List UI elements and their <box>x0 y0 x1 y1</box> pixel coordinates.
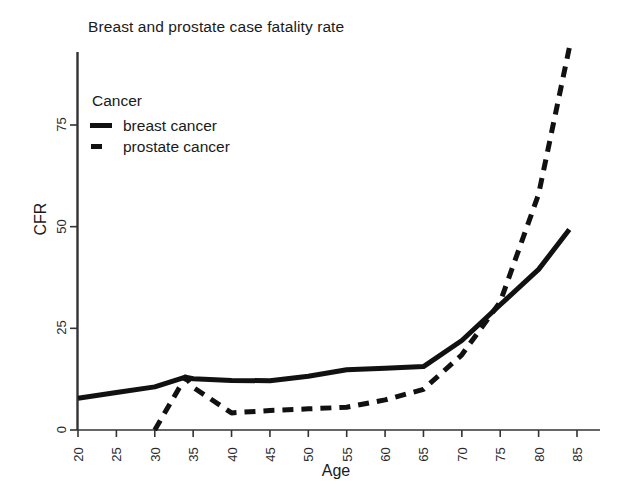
x-tick-label-35: 35 <box>186 442 201 468</box>
x-tick-label-50: 50 <box>301 442 316 468</box>
chart-figure: Breast and prostate case fatality rate C… <box>0 0 622 496</box>
series-line-breast-cancer <box>78 230 569 399</box>
x-tick-label-60: 60 <box>378 442 393 468</box>
y-tick-label-25: 25 <box>54 315 69 341</box>
x-tick-label-25: 25 <box>109 442 124 468</box>
y-tick-label-0: 0 <box>54 417 69 443</box>
y-tick-label-75: 75 <box>54 112 69 138</box>
data-series-layer <box>78 48 569 430</box>
x-tick-label-70: 70 <box>454 442 469 468</box>
plot-area <box>0 0 622 496</box>
y-tick-label-50: 50 <box>54 213 69 239</box>
x-tick-label-20: 20 <box>71 442 86 468</box>
x-tick-marks <box>78 430 577 437</box>
x-tick-label-85: 85 <box>570 442 585 468</box>
x-tick-label-75: 75 <box>493 442 508 468</box>
x-tick-label-30: 30 <box>147 442 162 468</box>
x-tick-label-45: 45 <box>262 442 277 468</box>
x-tick-label-65: 65 <box>416 442 431 468</box>
x-tick-label-40: 40 <box>224 442 239 468</box>
x-tick-label-55: 55 <box>339 442 354 468</box>
series-line-prostate-cancer <box>155 48 570 430</box>
x-tick-label-80: 80 <box>531 442 546 468</box>
